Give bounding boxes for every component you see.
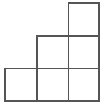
cell-r2-c1 — [37, 68, 69, 101]
cell-r1-c1 — [37, 36, 69, 69]
cell-r0-c2 — [68, 3, 99, 36]
cell-r2-c2 — [68, 68, 99, 101]
staircase-figure — [0, 0, 105, 111]
cell-r1-c2 — [68, 36, 99, 69]
cell-r2-c0 — [5, 68, 37, 101]
figure-canvas — [0, 0, 105, 111]
